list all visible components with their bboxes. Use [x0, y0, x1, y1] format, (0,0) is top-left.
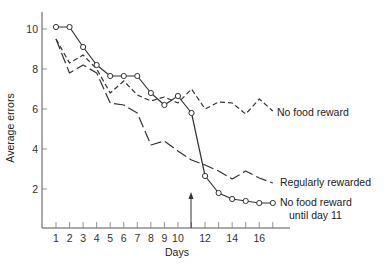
data-point-marker: [257, 200, 262, 205]
y-ticks: 246810: [26, 23, 47, 195]
x-tick-label: 6: [121, 232, 127, 244]
data-point-marker: [67, 24, 72, 29]
legend-no-food-until-day-11-line2: until day 11: [289, 209, 342, 221]
series-layer: [53, 24, 275, 205]
y-axis-label: Average errors: [4, 93, 16, 162]
x-tick-label: 16: [253, 232, 265, 244]
data-point-marker: [216, 190, 221, 195]
legend-no-food-reward: No food reward: [277, 106, 349, 118]
y-tick-label: 4: [32, 143, 38, 155]
data-point-marker: [94, 62, 99, 67]
data-point-marker: [81, 44, 86, 49]
x-tick-label: 9: [161, 232, 167, 244]
x-tick-label: 1: [53, 232, 59, 244]
y-tick-label: 8: [32, 63, 38, 75]
x-tick-label: 12: [199, 232, 211, 244]
y-tick-label: 2: [32, 183, 38, 195]
x-tick-label: 7: [134, 232, 140, 244]
data-point-marker: [135, 73, 140, 78]
data-point-marker: [243, 198, 248, 203]
data-point-marker: [53, 24, 58, 29]
data-point-marker: [202, 173, 207, 178]
axes: [42, 12, 290, 228]
y-tick-label: 10: [26, 23, 38, 35]
x-ticks: 12345678910121416: [53, 222, 273, 244]
data-point-marker: [175, 93, 180, 98]
line-chart: 246810 12345678910121416 Average errors …: [0, 0, 384, 267]
y-tick-label: 6: [32, 103, 38, 115]
data-point-marker: [230, 196, 235, 201]
series-no-food-reward-until-day-11: [56, 27, 273, 203]
data-point-marker: [121, 73, 126, 78]
x-tick-label: 3: [80, 232, 86, 244]
x-tick-label: 2: [67, 232, 73, 244]
data-point-marker: [189, 110, 194, 115]
data-point-marker: [148, 90, 153, 95]
legend-no-food-until-day-11-line1: No food reward: [280, 196, 352, 208]
x-tick-label: 4: [94, 232, 100, 244]
x-axis-label: Days: [165, 246, 189, 258]
x-tick-label: 8: [148, 232, 154, 244]
data-point-marker: [270, 200, 275, 205]
x-tick-label: 10: [172, 232, 184, 244]
data-point-marker: [162, 102, 167, 107]
day-11-arrow: [189, 192, 194, 228]
legend-regularly-rewarded: Regularly rewarded: [280, 176, 371, 188]
data-point-marker: [108, 73, 113, 78]
x-tick-label: 5: [107, 232, 113, 244]
x-tick-label: 14: [226, 232, 238, 244]
